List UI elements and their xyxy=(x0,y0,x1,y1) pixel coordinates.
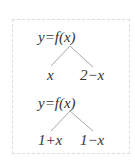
right-branch-1: 2−x xyxy=(80,68,104,83)
root-function-2: y=f(x) xyxy=(38,96,76,111)
branch-lines xyxy=(0,0,135,164)
root-function-1: y=f(x) xyxy=(38,30,76,45)
left-branch-1: x xyxy=(47,68,54,83)
left-branch-2: 1+x xyxy=(38,133,62,148)
right-branch-2: 1−x xyxy=(80,133,104,148)
